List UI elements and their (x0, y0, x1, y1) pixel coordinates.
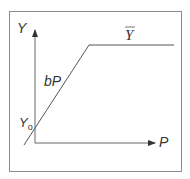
intercept-label: Yo (19, 115, 33, 132)
intercept-main: Y (19, 115, 28, 130)
cap-label: Y (125, 27, 133, 44)
diagram-canvas (0, 0, 190, 179)
function-line (24, 45, 174, 145)
slope-label: bP (44, 73, 61, 89)
intercept-subscript: o (28, 122, 33, 132)
y-axis-label: Y (17, 20, 26, 36)
x-axis-label: P (159, 134, 168, 150)
